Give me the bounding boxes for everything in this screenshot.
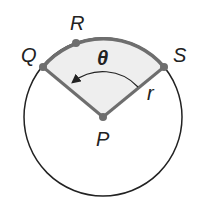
label-radius: r xyxy=(147,82,155,104)
point-R xyxy=(72,39,80,47)
label-theta: θ xyxy=(97,47,108,69)
point-Q xyxy=(39,63,47,71)
circle-sector-diagram: Q R S P θ r xyxy=(0,0,198,208)
label-Q: Q xyxy=(21,44,37,66)
label-P: P xyxy=(96,128,110,150)
point-S xyxy=(160,63,168,71)
label-R: R xyxy=(70,12,84,34)
label-S: S xyxy=(173,44,187,66)
point-P xyxy=(99,113,107,121)
